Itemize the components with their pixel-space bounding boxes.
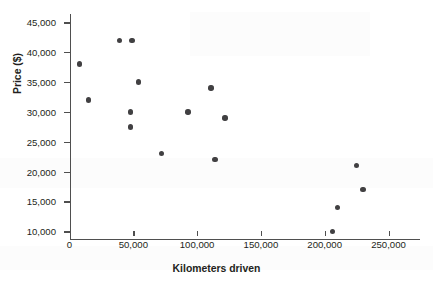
- x-axis-tick-label: 150,000: [244, 239, 279, 250]
- plot-area: 10,00015,00020,00025,00030,00035,00040,0…: [70, 22, 389, 231]
- y-axis-tick: 25,000: [64, 142, 70, 143]
- y-axis-tick-label: 30,000: [27, 106, 56, 117]
- x-axis-tick-label: 200,000: [307, 239, 342, 250]
- y-axis-tick: 40,000: [64, 52, 70, 53]
- y-axis-tick: 15,000: [64, 201, 70, 202]
- data-point: [128, 109, 133, 114]
- x-axis-tick: [197, 231, 198, 237]
- x-axis-tick-label: 0: [67, 239, 72, 250]
- y-axis-title: Price ($): [12, 53, 23, 94]
- data-point: [86, 97, 91, 102]
- y-axis-tick: 20,000: [64, 172, 70, 173]
- y-axis-tick-label: 15,000: [27, 196, 56, 207]
- data-point: [136, 79, 141, 84]
- y-axis-tick-label: 35,000: [27, 77, 56, 88]
- data-point: [354, 163, 359, 168]
- x-axis-tick: [70, 231, 71, 237]
- x-axis-tick: [133, 231, 134, 237]
- data-point: [222, 115, 227, 120]
- y-axis-tick: 30,000: [64, 112, 70, 113]
- data-point: [335, 205, 340, 210]
- y-axis-tick: 45,000: [64, 22, 70, 23]
- data-point: [185, 109, 190, 114]
- data-point: [360, 187, 365, 192]
- data-point: [129, 38, 134, 43]
- x-axis-tick-label: 50,000: [119, 239, 148, 250]
- data-point: [159, 151, 164, 156]
- x-axis-tick-label: 250,000: [371, 239, 406, 250]
- x-axis-tick-label: 100,000: [180, 239, 215, 250]
- data-point: [77, 61, 82, 66]
- x-axis-tick: [325, 231, 326, 237]
- y-axis-tick-label: 45,000: [27, 17, 56, 28]
- y-axis-tick: 35,000: [64, 82, 70, 83]
- y-axis-tick-label: 40,000: [27, 47, 56, 58]
- x-axis-title: Kilometers driven: [0, 263, 433, 274]
- scatter-plot-figure: 10,00015,00020,00025,00030,00035,00040,0…: [0, 0, 433, 284]
- data-point: [330, 229, 335, 234]
- data-point: [128, 124, 133, 129]
- data-point: [208, 85, 213, 90]
- x-axis-tick: [261, 231, 262, 237]
- y-axis-tick-label: 25,000: [27, 136, 56, 147]
- y-axis-tick-label: 20,000: [27, 166, 56, 177]
- data-point: [117, 38, 122, 43]
- x-axis-tick: [389, 231, 390, 237]
- y-axis-tick-label: 10,000: [27, 226, 56, 237]
- data-point: [212, 157, 217, 162]
